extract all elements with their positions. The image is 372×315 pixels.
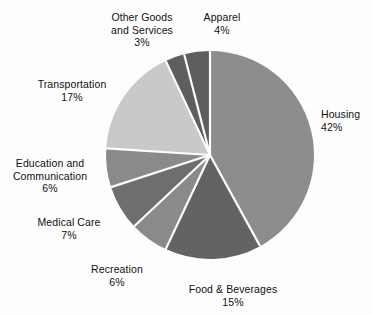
slice-label-transportation: Transportation 17% (22, 78, 122, 103)
slice-value-education-and-communication: 6% (2, 182, 98, 195)
slice-label-education-and-communication: Education and Communication 6% (2, 157, 98, 195)
slice-label-housing: Housing 42% (321, 108, 371, 133)
slice-value-transportation: 17% (22, 91, 122, 104)
slice-label-transportation-name: Transportation (22, 78, 122, 91)
slice-value-food-and-beverages: 15% (168, 296, 298, 309)
pie-chart: Other Goods and Services 3% Apparel 4% T… (0, 0, 372, 315)
slice-label-education-line2: Communication (2, 170, 98, 183)
slice-label-apparel: Apparel 4% (192, 11, 252, 36)
slice-label-recreation: Recreation 6% (78, 263, 156, 288)
slice-label-food-and-beverages: Food & Beverages 15% (168, 283, 298, 308)
slice-value-other-goods-and-services: 3% (96, 36, 188, 49)
slice-value-recreation: 6% (78, 276, 156, 289)
slice-label-medical-care: Medical Care 7% (24, 216, 114, 241)
slice-label-housing-name: Housing (321, 108, 371, 121)
slice-label-apparel-name: Apparel (192, 11, 252, 24)
slice-label-other-goods-line1: Other Goods (96, 11, 188, 24)
slice-label-other-goods-and-services: Other Goods and Services 3% (96, 11, 188, 49)
slice-label-food-and-beverages-name: Food & Beverages (168, 283, 298, 296)
slice-label-education-line1: Education and (2, 157, 98, 170)
slice-value-apparel: 4% (192, 24, 252, 37)
slice-label-recreation-name: Recreation (78, 263, 156, 276)
slice-label-medical-care-name: Medical Care (24, 216, 114, 229)
slice-value-housing: 42% (321, 121, 371, 134)
slice-label-other-goods-line2: and Services (96, 24, 188, 37)
slice-value-medical-care: 7% (24, 229, 114, 242)
